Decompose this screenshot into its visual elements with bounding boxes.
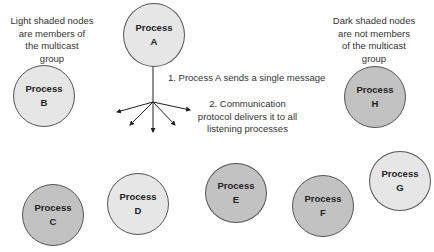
node-label: Process [136,21,173,35]
node-letter: F [320,206,326,220]
node-letter: H [372,97,379,111]
process-node-g: Process G [369,151,431,211]
node-label: Process [26,82,63,96]
process-node-b: Process B [13,65,75,127]
node-letter: B [41,96,48,110]
node-letter: A [151,35,158,49]
node-label: Process [382,167,419,181]
process-node-d: Process D [107,173,169,235]
process-node-e: Process E [205,163,267,223]
node-letter: G [396,181,403,195]
node-label: Process [305,192,342,206]
node-letter: D [135,204,142,218]
node-label: Process [35,201,72,215]
process-node-a: Process A [123,3,185,67]
process-node-h: Process H [344,66,406,128]
node-label: Process [357,83,394,97]
node-label: Process [218,179,255,193]
process-node-c: Process C [22,184,84,246]
node-letter: E [233,193,239,207]
node-letter: C [50,215,57,229]
process-node-f: Process F [292,175,354,237]
node-label: Process [120,190,157,204]
